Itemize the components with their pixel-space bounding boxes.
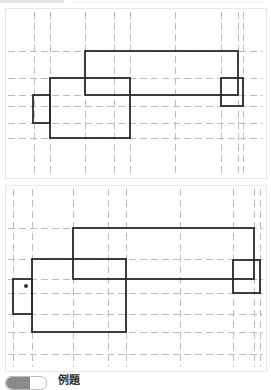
toggle-pill[interactable] <box>5 376 47 390</box>
figure-footer: 例題 <box>0 375 271 386</box>
toggle-pill-fill <box>6 377 30 389</box>
panel-top <box>6 9 267 179</box>
top-long-rect <box>73 228 254 279</box>
small-right-rect <box>233 260 260 293</box>
middle-left-rect <box>50 78 130 138</box>
small-left-rect <box>13 279 32 314</box>
marker-dot <box>24 284 28 288</box>
small-left-rect <box>33 95 50 123</box>
panel-bottom <box>6 186 267 372</box>
figure-caption: 例題 <box>58 375 80 387</box>
middle-left-rect <box>32 259 126 332</box>
top-long-rect <box>85 51 238 95</box>
panel-frame <box>6 9 267 179</box>
small-right-rect <box>221 78 243 106</box>
